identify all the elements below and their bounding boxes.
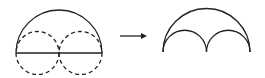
outer-semicircle xyxy=(16,10,102,53)
inner-arc-right xyxy=(207,30,251,52)
arrow xyxy=(120,33,147,39)
diagram-canvas xyxy=(0,0,265,78)
inner-arc-left xyxy=(163,30,207,52)
left-figure xyxy=(16,10,102,75)
arrow-head-icon xyxy=(141,33,147,39)
right-figure xyxy=(163,8,250,52)
outer-arc xyxy=(163,8,250,52)
